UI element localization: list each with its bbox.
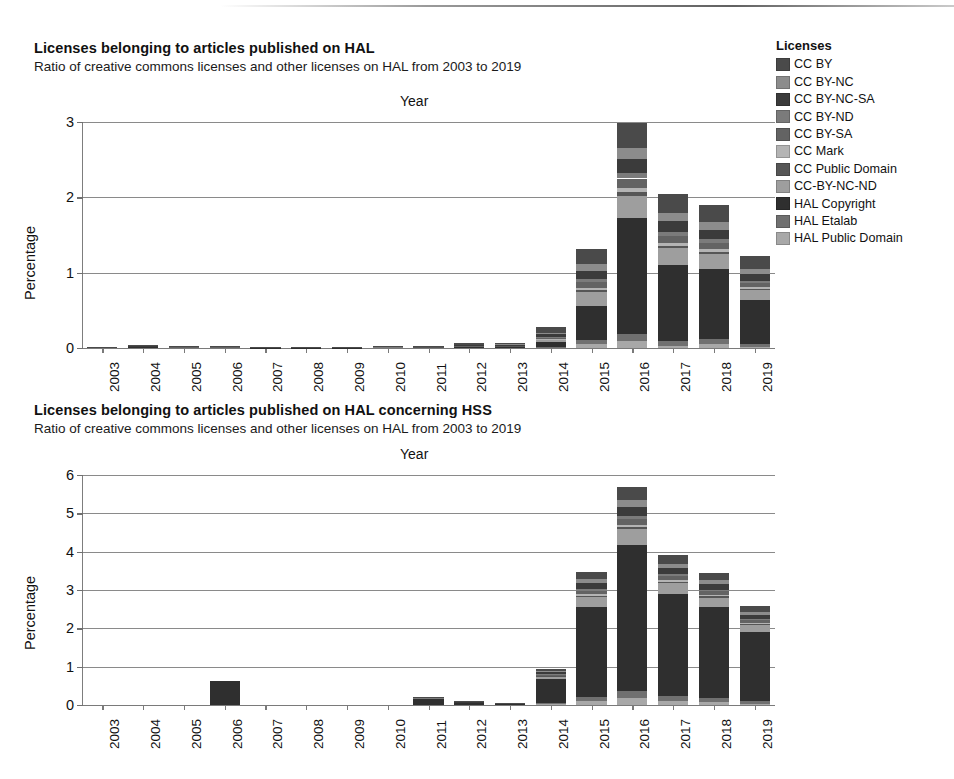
bar-2013[interactable]	[495, 704, 525, 705]
bar-segment	[617, 545, 647, 691]
bar-segment	[699, 222, 729, 230]
bar-2014[interactable]	[536, 669, 566, 705]
bar-2006[interactable]	[210, 681, 240, 705]
legend-title: Licenses	[776, 38, 903, 53]
xtick-mark	[510, 705, 511, 710]
legend-item[interactable]: CC BY-SA	[776, 126, 903, 143]
ytick-mark	[77, 552, 83, 553]
bar-2015[interactable]	[576, 572, 606, 705]
bar-2013[interactable]	[495, 343, 525, 348]
bar-segment	[658, 236, 688, 243]
xtick-label: 2015	[597, 719, 612, 749]
bar-segment	[576, 697, 606, 701]
bar-segment	[617, 516, 647, 519]
xtick-mark	[469, 705, 470, 710]
xtick-mark	[510, 348, 511, 353]
xtick-label: 2016	[637, 719, 652, 749]
legend-item[interactable]: CC BY	[776, 56, 903, 73]
legend-item[interactable]: CC BY-NC-SA	[776, 91, 903, 108]
bar-segment	[658, 555, 688, 564]
legend-item[interactable]: CC BY-ND	[776, 108, 903, 125]
bar-2012[interactable]	[454, 702, 484, 705]
bar-2008[interactable]	[291, 347, 321, 348]
legend-item-label: CC Mark	[794, 145, 844, 158]
legend-item-label: CC Public Domain	[794, 163, 897, 176]
gridline	[82, 122, 775, 123]
bar-segment	[576, 264, 606, 271]
bar-segment	[740, 289, 770, 291]
ytick-label: 1	[66, 659, 74, 675]
bar-segment	[740, 623, 770, 624]
bar-segment	[536, 333, 566, 335]
bar-segment	[740, 290, 770, 300]
bar-segment	[740, 344, 770, 347]
bar-2006[interactable]	[210, 346, 240, 348]
bar-segment	[658, 248, 688, 264]
bar-2019[interactable]	[740, 606, 770, 705]
bar-2007[interactable]	[250, 347, 280, 348]
bar-2012[interactable]	[454, 343, 484, 348]
bar-segment	[332, 347, 362, 348]
legend-item[interactable]: CC-BY-NC-ND	[776, 178, 903, 195]
bar-2003[interactable]	[87, 347, 117, 348]
legend-item-label: CC BY-NC-SA	[794, 93, 875, 106]
bar-2009[interactable]	[332, 347, 362, 348]
bar-segment	[536, 703, 566, 704]
bar-segment	[740, 615, 770, 619]
xtick-label: 2010	[393, 362, 408, 392]
chart-1-xaxis-title: Year	[400, 93, 428, 109]
legend-swatch-icon	[776, 232, 790, 245]
legend-item[interactable]: CC Public Domain	[776, 160, 903, 177]
legend-swatch-icon	[776, 145, 790, 158]
bar-segment	[128, 345, 158, 346]
bar-segment	[576, 591, 606, 595]
ytick-mark	[77, 197, 83, 198]
bar-segment	[87, 347, 117, 348]
xtick-label: 2014	[556, 362, 571, 392]
bar-segment	[617, 487, 647, 500]
bar-2005[interactable]	[169, 346, 199, 348]
bar-2017[interactable]	[658, 555, 688, 705]
bar-2010[interactable]	[373, 346, 403, 348]
bar-segment	[658, 574, 688, 576]
bar-segment	[658, 564, 688, 569]
bar-2017[interactable]	[658, 194, 688, 348]
bar-segment	[740, 625, 770, 632]
bar-2019[interactable]	[740, 256, 770, 348]
bar-segment	[740, 274, 770, 280]
legend-item[interactable]: HAL Public Domain	[776, 230, 903, 247]
bar-2015[interactable]	[576, 249, 606, 348]
bar-segment	[576, 282, 606, 288]
gridline	[82, 552, 775, 553]
bar-segment	[740, 300, 770, 344]
bar-2011[interactable]	[413, 346, 443, 348]
legend-item[interactable]: HAL Copyright	[776, 195, 903, 212]
bar-segment	[699, 702, 729, 705]
xtick-mark	[714, 705, 715, 710]
bar-2018[interactable]	[699, 205, 729, 348]
bar-2018[interactable]	[699, 573, 729, 705]
xtick-label: 2013	[515, 719, 530, 749]
gridline	[82, 475, 775, 476]
bar-2016[interactable]	[617, 487, 647, 705]
bar-segment	[658, 580, 688, 582]
bar-2011[interactable]	[413, 697, 443, 705]
bar-2014[interactable]	[536, 327, 566, 348]
bar-2004[interactable]	[128, 345, 158, 348]
chart-1-yaxis-line	[82, 122, 83, 348]
xtick-mark	[673, 705, 674, 710]
legend-item[interactable]: CC Mark	[776, 143, 903, 160]
ytick-label: 0	[66, 697, 74, 713]
xtick-label: 2016	[637, 362, 652, 392]
xtick-label: 2003	[107, 362, 122, 392]
bar-segment	[658, 232, 688, 236]
bar-segment	[536, 340, 566, 342]
legend-item[interactable]: CC BY-NC	[776, 73, 903, 90]
legend-item[interactable]: HAL Etalab	[776, 213, 903, 230]
bar-segment	[658, 568, 688, 574]
ytick-label: 1	[66, 265, 74, 281]
ytick-label: 6	[66, 467, 74, 483]
bar-2016[interactable]	[617, 123, 647, 348]
ytick-label: 4	[66, 544, 74, 560]
xtick-mark	[429, 705, 430, 710]
